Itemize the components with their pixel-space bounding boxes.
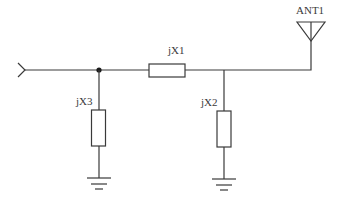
reactance-jx1-body (149, 64, 185, 77)
label-ant1: ANT1 (296, 4, 324, 16)
component-jx2: jX2 (200, 70, 231, 179)
component-jx1: jX1 (149, 44, 185, 77)
input-arrow-icon (18, 63, 25, 77)
antenna-icon: ANT1 (296, 4, 325, 41)
label-jx3: jX3 (75, 95, 93, 107)
component-jx3: jX3 (75, 70, 106, 178)
ground-icon (212, 179, 236, 190)
label-jx2: jX2 (200, 96, 218, 108)
circuit-diagram: jX1 ANT1 jX3 jX2 (0, 0, 341, 203)
reactance-jx2-body (217, 111, 231, 147)
ground-icon (87, 178, 111, 189)
reactance-jx3-body (92, 110, 106, 146)
wire-jx1-to-antenna (185, 41, 311, 70)
label-jx1: jX1 (167, 44, 185, 56)
